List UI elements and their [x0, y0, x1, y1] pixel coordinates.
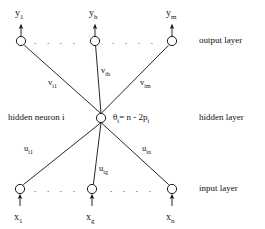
- node-ym: [167, 36, 176, 45]
- label-xn: xn: [166, 212, 175, 222]
- label-x1: x1: [14, 212, 23, 222]
- label-xg: xg: [86, 212, 95, 222]
- threshold-rest-sub: i: [147, 117, 149, 124]
- label-y1-sub: 1: [20, 13, 24, 21]
- neural-network-diagram: . . . . . . . . . . . . . . . . y1 yh ym…: [0, 0, 265, 229]
- label-ym-sub: m: [171, 13, 176, 21]
- hidden-neuron-caption: hidden neuron i: [8, 113, 65, 122]
- weight-vih-sub: ih: [105, 71, 110, 77]
- edge-hidden-to-yh: [96, 46, 101, 114]
- label-ym: ym: [166, 8, 176, 18]
- edge-hidden-to-y1: [24, 45, 101, 113]
- label-x1-sub: 1: [19, 217, 23, 225]
- output-arrows: [21, 25, 172, 37]
- weight-uig-sub: ig: [103, 169, 108, 175]
- layer-name-hidden: hidden layer: [199, 113, 244, 122]
- input-ellipsis-right: . . . .: [110, 185, 155, 194]
- label-xn-sub: n: [171, 217, 175, 225]
- node-xn: [167, 184, 176, 193]
- weight-label-vim: vim: [140, 78, 151, 87]
- threshold-equation: θi= n - 2pi: [113, 113, 149, 122]
- weight-label-uig: uig: [99, 164, 108, 173]
- label-y1: y1: [15, 8, 24, 18]
- input-arrows: [20, 195, 172, 207]
- node-y1: [16, 36, 25, 45]
- weight-ui1-sub: i1: [28, 149, 33, 155]
- edge-xg-to-hidden: [93, 123, 101, 185]
- layer-name-input: input layer: [199, 184, 238, 193]
- threshold-rest: = n - 2p: [119, 112, 147, 122]
- weight-label-vi1: vi1: [48, 78, 57, 87]
- label-yh-sub: h: [94, 13, 98, 21]
- output-ellipsis-left: . . . .: [34, 37, 79, 46]
- weight-label-ui1: ui1: [24, 144, 33, 153]
- edge-xn-to-hidden: [101, 123, 169, 185]
- input-ellipsis-left: . . . .: [34, 185, 79, 194]
- weight-label-vih: vih: [101, 66, 110, 75]
- hidden-nodes: [96, 113, 105, 122]
- node-x1: [15, 184, 24, 193]
- edge-hidden-to-ym: [101, 45, 169, 113]
- label-xg-sub: g: [91, 217, 95, 225]
- weight-label-uin: uin: [142, 144, 151, 153]
- node-xg: [87, 184, 96, 193]
- output-ellipsis-right: . . . .: [112, 37, 157, 46]
- layer-name-output: output layer: [199, 36, 242, 45]
- weight-uin-sub: in: [146, 149, 151, 155]
- weight-vim-sub: im: [144, 83, 150, 89]
- node-hidden-i: [96, 113, 105, 122]
- label-yh: yh: [89, 8, 98, 18]
- edge-x1-to-hidden: [23, 123, 101, 185]
- node-yh: [90, 36, 99, 45]
- weight-vi1-sub: i1: [52, 83, 57, 89]
